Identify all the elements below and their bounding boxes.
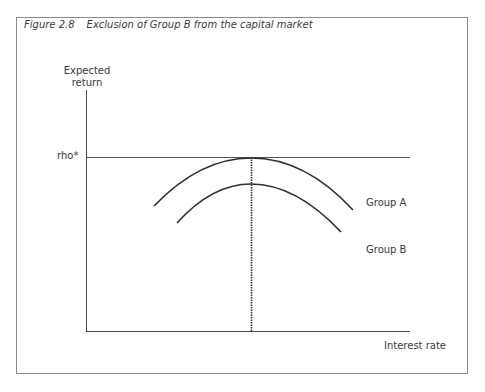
group-a-label: Group A [366,197,406,208]
group-b-label: Group B [366,244,406,255]
y-axis-label-line1: Expected [61,65,113,77]
x-axis-label: Interest rate [384,340,446,351]
group-b-curve [177,184,341,232]
rho-label: rho* [57,150,78,161]
y-axis-label-line2: return [61,77,113,89]
diagram-plot [0,0,485,392]
y-axis-label: Expected return [61,65,113,89]
